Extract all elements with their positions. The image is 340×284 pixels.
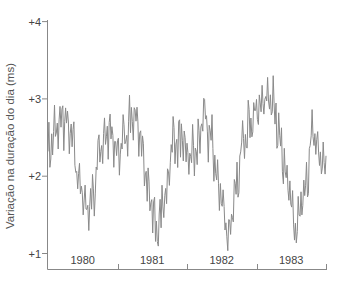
y-axis-label: Variação na duração do dia (ms) [4,63,16,229]
y-ticks: +4+3+2+1 [28,16,47,260]
x-tick-label: 1982 [210,254,234,266]
x-tick-label: 1980 [71,254,95,266]
y-tick-label: +4 [28,16,41,28]
line-chart: +4+3+2+1 1980198119821983 Variação na du… [0,0,340,284]
y-tick-label: +1 [28,248,41,260]
y-tick-label: +3 [28,93,41,105]
y-tick-label: +2 [28,170,41,182]
x-ticks: 1980198119821983 [71,254,327,270]
x-tick-label: 1983 [279,254,303,266]
series-line [48,76,326,251]
x-tick-label: 1981 [140,254,164,266]
